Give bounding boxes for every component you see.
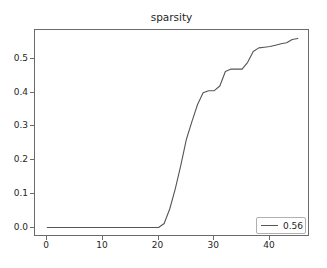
data-line-series bbox=[35, 30, 310, 237]
x-axis-tick-label: 20 bbox=[143, 240, 173, 250]
legend-entry-label: 0.56 bbox=[283, 221, 303, 231]
y-axis-tick-mark bbox=[30, 193, 34, 194]
y-axis-tick-mark bbox=[30, 227, 34, 228]
y-axis-tick-mark bbox=[30, 58, 34, 59]
x-axis-tick-label: 40 bbox=[254, 240, 284, 250]
plot-area bbox=[34, 29, 309, 236]
chart-figure: sparsity 0.00.10.20.30.40.5 010203040 0.… bbox=[0, 0, 327, 268]
x-axis-tick-label: 30 bbox=[198, 240, 228, 250]
y-axis-tick-mark bbox=[30, 92, 34, 93]
y-axis-tick-labels: 0.00.10.20.30.40.5 bbox=[0, 0, 28, 268]
chart-legend[interactable]: 0.56 bbox=[256, 217, 306, 234]
y-axis-tick-label: 0.1 bbox=[2, 188, 28, 198]
legend-line-swatch bbox=[261, 225, 278, 226]
y-axis-tick-label: 0.2 bbox=[2, 154, 28, 164]
x-axis-tick-label: 0 bbox=[31, 240, 61, 250]
x-axis-tick-label: 10 bbox=[87, 240, 117, 250]
y-axis-tick-mark bbox=[30, 159, 34, 160]
y-axis-tick-label: 0.4 bbox=[2, 87, 28, 97]
y-axis-tick-label: 0.5 bbox=[2, 53, 28, 63]
y-axis-tick-label: 0.3 bbox=[2, 120, 28, 130]
y-axis-tick-mark bbox=[30, 125, 34, 126]
series-polyline-0 bbox=[47, 38, 298, 227]
y-axis-tick-label: 0.0 bbox=[2, 222, 28, 232]
chart-title: sparsity bbox=[34, 10, 309, 24]
